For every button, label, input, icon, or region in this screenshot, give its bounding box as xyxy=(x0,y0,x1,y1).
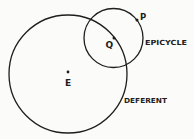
deferent-epicycle-diagram: E Q P EPICYCLE DEFERENT xyxy=(0,0,194,139)
point-q-label: Q xyxy=(106,40,114,50)
diagram-svg: E Q P EPICYCLE DEFERENT xyxy=(0,0,194,139)
point-p-label: P xyxy=(140,12,146,22)
point-e-label: E xyxy=(65,78,71,88)
epicycle-label: EPICYCLE xyxy=(145,39,187,47)
point-p-dot xyxy=(136,19,139,22)
deferent-circle xyxy=(9,15,127,133)
point-e-dot xyxy=(67,71,70,74)
deferent-label: DEFERENT xyxy=(124,97,167,105)
